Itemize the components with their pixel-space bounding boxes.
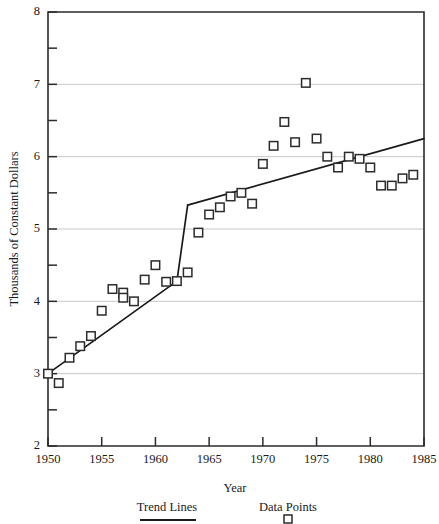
data-point [302,79,311,88]
x-axis-title: Year [223,481,247,495]
data-point [398,174,407,183]
data-point [334,163,343,172]
data-point [216,203,225,212]
x-tick-label-1965: 1965 [197,452,222,466]
x-tick-label-1985: 1985 [412,452,437,466]
y-tick-label-2: 2 [34,438,40,452]
data-point [76,342,85,351]
y-tick-label-3: 3 [34,366,40,380]
legend-label-data-points: Data Points [259,500,317,514]
chart-figure: 2345678 19501955196019651970197519801985… [0,0,439,524]
data-point [269,142,278,151]
data-point [108,285,117,294]
data-point [291,138,300,147]
data-point [259,160,268,169]
y-tick-label-7: 7 [34,77,40,91]
data-point [237,189,246,198]
data-point [226,192,235,201]
data-point [355,155,364,164]
data-point [65,354,74,363]
data-point [54,379,63,388]
scatter-chart-with-trend-lines: 2345678 19501955196019651970197519801985… [0,0,439,524]
data-point [162,278,171,287]
y-tick-label-5: 5 [34,221,40,235]
data-point [388,181,397,190]
legend-swatch-square [284,515,292,523]
x-tick-label-1950: 1950 [36,452,61,466]
data-point [312,134,321,143]
data-point [280,118,289,127]
y-tick-label-4: 4 [34,294,41,308]
y-axis-title: Thousands of Constant Dollars [7,151,21,306]
x-tick-label-1955: 1955 [89,452,114,466]
x-tick-label-1980: 1980 [358,452,383,466]
data-point [183,268,192,277]
y-tick-label-8: 8 [34,4,40,18]
data-point [130,297,139,306]
data-point [248,199,256,208]
y-tick-label-6: 6 [34,149,40,163]
data-point [409,171,418,180]
data-point [366,163,375,172]
data-point [44,369,53,378]
data-point [345,152,354,161]
data-point [194,228,203,237]
data-point [205,210,214,219]
data-point [377,181,386,190]
data-point [87,332,96,341]
data-point [119,293,128,302]
x-tick-label-1970: 1970 [250,452,275,466]
data-point [140,275,149,284]
x-tick-label-1975: 1975 [304,452,329,466]
data-point [173,277,182,286]
data-point [323,152,332,161]
x-tick-label-1960: 1960 [143,452,168,466]
data-point [151,261,160,270]
legend-label-trend-lines: Trend Lines [137,500,197,514]
data-point [97,306,106,315]
